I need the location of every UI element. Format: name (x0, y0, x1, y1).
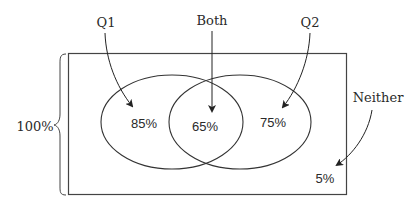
brace-icon (54, 54, 66, 195)
venn-diagram: Q1 Both Q2 Neither 100% 85% 65% 75% 5% (0, 0, 414, 205)
total-label: 100% (16, 120, 53, 133)
q1-only-value: 85% (131, 117, 157, 130)
q2-arrow (283, 33, 310, 107)
both-label: Both (197, 14, 228, 27)
neither-arrow (337, 110, 372, 165)
both-value: 65% (192, 120, 218, 133)
neither-label: Neither (353, 91, 404, 104)
q1-arrow (105, 33, 132, 106)
q1-ellipse (101, 75, 243, 169)
q2-label: Q2 (301, 16, 320, 29)
q2-only-value: 75% (260, 116, 286, 129)
q2-ellipse (169, 75, 311, 169)
q1-label: Q1 (97, 16, 116, 29)
neither-value: 5% (316, 172, 335, 185)
